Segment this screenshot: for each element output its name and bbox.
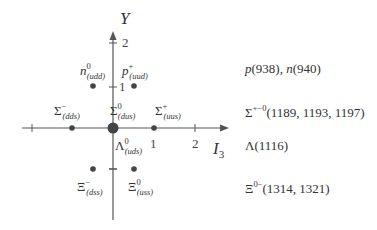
label-sigma-zero: Σ0(dus) bbox=[110, 102, 135, 121]
mass-sigmas: Σ+−0(1189, 1193, 1197) bbox=[245, 104, 365, 119]
dot-xi-minus bbox=[90, 166, 96, 172]
dot-sigma-minus bbox=[69, 125, 75, 131]
mass-lambda: Λ(1116) bbox=[245, 139, 288, 152]
label-sigma-plus: Σ+(uus) bbox=[155, 102, 181, 121]
x-tick-label-1: 1 bbox=[150, 137, 157, 150]
mass-xis: Ξ0−(1314, 1321) bbox=[245, 180, 330, 195]
y-tick-label-2: 2 bbox=[122, 36, 129, 49]
dot-neutron bbox=[90, 83, 96, 89]
x-axis-label-sub: 3 bbox=[219, 148, 225, 160]
y-tick-label-1: 1 bbox=[119, 80, 126, 93]
y-axis-label: Y bbox=[120, 10, 129, 27]
x-tick-label-2: 2 bbox=[192, 137, 199, 150]
label-sigma-minus: Σ−(dds) bbox=[54, 102, 80, 121]
x-axis-label: I3 bbox=[213, 140, 224, 160]
label-neutron: n0(udd) bbox=[80, 62, 105, 81]
dot-proton bbox=[131, 83, 137, 89]
label-proton: p+(uud) bbox=[122, 62, 148, 81]
dot-xi-zero bbox=[131, 166, 137, 172]
dot-sigma-plus bbox=[151, 125, 157, 131]
label-xi-minus: Ξ−(dss) bbox=[77, 178, 103, 197]
dot-sigma-zero-lambda bbox=[108, 123, 119, 134]
label-xi-zero: Ξ0(uss) bbox=[128, 178, 153, 197]
label-lambda: Λ0(uds) bbox=[115, 137, 142, 156]
y-axis-arrow-icon bbox=[110, 31, 117, 40]
mass-nucleons: p(938), n(940) bbox=[245, 62, 321, 75]
x-axis-arrow-icon bbox=[220, 125, 229, 132]
